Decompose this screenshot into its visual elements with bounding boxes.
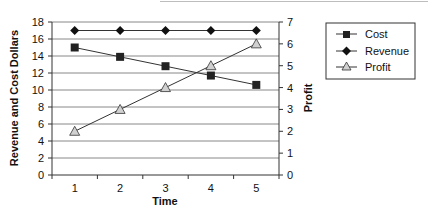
- y-tick-label: 10: [32, 84, 44, 96]
- y-tick-label: 18: [32, 16, 44, 28]
- y-tick-label: 12: [32, 67, 44, 79]
- x-tick-label: 3: [162, 182, 168, 194]
- triangle-marker-icon: [115, 104, 125, 113]
- y-tick-label: 0: [38, 169, 44, 181]
- y-tick-label: 16: [32, 33, 44, 45]
- y-tick-label: 6: [38, 118, 44, 130]
- y2-tick-label: 2: [287, 125, 293, 137]
- legend-label: Profit: [365, 61, 391, 73]
- square-marker-icon: [162, 62, 170, 70]
- y-axis-title: Revenue and Cost Dollars: [8, 30, 20, 166]
- y-tick-label: 2: [38, 152, 44, 164]
- x-tick-label: 2: [117, 182, 123, 194]
- x-tick-label: 5: [253, 182, 259, 194]
- y-tick-label: 4: [38, 135, 44, 147]
- square-marker-icon: [343, 31, 350, 38]
- y-tick-label: 14: [32, 50, 44, 62]
- diamond-marker-icon: [116, 26, 125, 35]
- y2-tick-label: 7: [287, 16, 293, 28]
- x-tick-label: 1: [72, 182, 78, 194]
- y2-tick-label: 1: [287, 147, 293, 159]
- y2-axis-title: Profit: [302, 83, 314, 112]
- diamond-marker-icon: [252, 26, 261, 35]
- y2-tick-label: 5: [287, 60, 293, 72]
- y-tick-label: 8: [38, 101, 44, 113]
- y2-tick-label: 3: [287, 103, 293, 115]
- legend-label: Revenue: [365, 45, 409, 57]
- diamond-marker-icon: [161, 26, 170, 35]
- square-marker-icon: [252, 81, 260, 89]
- series-group: [70, 26, 262, 135]
- square-marker-icon: [71, 44, 79, 52]
- diamond-marker-icon: [70, 26, 79, 35]
- y2-tick-label: 0: [287, 169, 293, 181]
- triangle-marker-icon: [251, 39, 261, 48]
- y2-tick-label: 6: [287, 38, 293, 50]
- x-axis-title: Time: [152, 195, 177, 207]
- legend-label: Cost: [365, 28, 388, 40]
- triangle-marker-icon: [161, 83, 171, 92]
- square-marker-icon: [207, 72, 215, 80]
- x-tick-label: 4: [208, 182, 214, 194]
- triangle-marker-icon: [70, 126, 80, 135]
- legend: Cost Revenue Profit: [326, 23, 415, 79]
- y2-tick-label: 4: [287, 82, 293, 94]
- triangle-marker-icon: [206, 61, 216, 70]
- diamond-marker-icon: [206, 26, 215, 35]
- line-chart: 0246810121416180123456712345 Time Revenu…: [0, 0, 432, 220]
- square-marker-icon: [116, 53, 124, 61]
